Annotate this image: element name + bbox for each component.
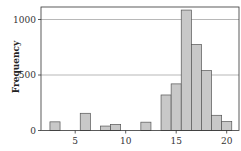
- histogram-bar: [161, 95, 171, 131]
- x-tick-label: 10: [120, 136, 132, 146]
- x-tick-label: 15: [170, 136, 182, 146]
- histogram-bar: [80, 113, 90, 130]
- chart-canvas: 050010005101520: [0, 0, 241, 151]
- x-tick-label: 5: [72, 136, 78, 146]
- y-axis-label: Frequency: [11, 37, 21, 97]
- histogram-bar: [212, 115, 222, 130]
- histogram-bar: [222, 122, 232, 131]
- histogram-bar: [171, 84, 181, 131]
- histogram-bar: [50, 122, 60, 131]
- histogram-bar: [141, 122, 151, 130]
- x-tick-label: 20: [221, 136, 233, 146]
- histogram-bar: [201, 71, 211, 131]
- histogram-bar: [191, 44, 201, 130]
- histogram-bar: [181, 10, 191, 130]
- histogram-bar: [111, 124, 121, 130]
- y-tick-label: 0: [30, 126, 36, 136]
- y-tick-label: 500: [19, 70, 36, 80]
- histogram-bar: [100, 126, 110, 130]
- y-tick-label: 1000: [13, 15, 36, 25]
